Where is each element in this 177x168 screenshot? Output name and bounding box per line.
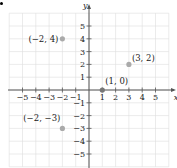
point-label: (1, 0) [105, 76, 128, 86]
x-axis-label: x [174, 93, 177, 102]
point-label: (−2, 4) [28, 34, 58, 44]
y-tick-label: 5 [80, 22, 85, 31]
y-tick-label: 4 [80, 35, 85, 44]
y-tick-label: 2 [80, 60, 85, 69]
x-tick-label: 1 [100, 93, 105, 102]
y-tick-label: −1 [73, 99, 85, 108]
y-tick-label: −4 [73, 137, 85, 146]
y-tick-label: 1 [80, 73, 85, 82]
y-tick-label: −2 [73, 112, 85, 121]
data-point [60, 126, 65, 131]
x-tick-label: −3 [43, 93, 55, 102]
point-label: (−2, −3) [23, 113, 60, 123]
x-tick-label: −5 [17, 93, 29, 102]
y-tick-label: −3 [73, 124, 85, 133]
x-tick-label: 4 [140, 93, 145, 102]
x-tick-label: −2 [57, 93, 69, 102]
data-point [126, 62, 131, 67]
x-axis-arrow-icon [171, 88, 176, 92]
y-axis-arrow-icon [87, 4, 91, 9]
x-tick-label: 2 [113, 93, 118, 102]
data-point [60, 36, 65, 41]
data-point [100, 87, 105, 92]
coordinate-plane: xy−5−4−3−2−11234554321−1−2−3−4−5(−2, 4)(… [0, 0, 177, 168]
point-label: (3, 2) [132, 53, 155, 63]
x-tick-label: 5 [153, 93, 158, 102]
y-tick-label: −5 [73, 150, 85, 159]
x-tick-label: −4 [30, 93, 42, 102]
x-tick-label: 3 [126, 93, 131, 102]
y-axis-label: y [82, 1, 88, 10]
y-tick-label: 3 [80, 48, 85, 57]
